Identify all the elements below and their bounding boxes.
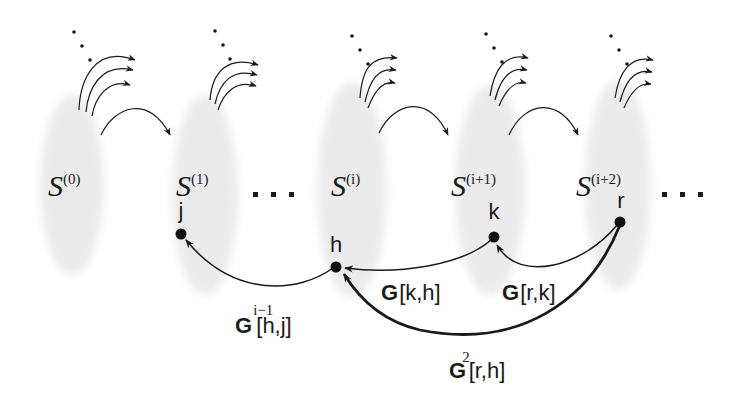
node-k	[489, 232, 500, 243]
set-ellipse-si	[317, 82, 387, 298]
node-label-j: j	[178, 198, 184, 223]
set-labels: S(0) S(1) S(i) S(i+1) S(i+2)	[48, 169, 621, 202]
edge-label-k-h: G[k,h]	[381, 280, 441, 305]
node-label-h: h	[330, 232, 342, 257]
transition-si-si1	[379, 107, 448, 135]
ellipsis-after	[662, 192, 703, 197]
node-label-k: k	[489, 199, 501, 224]
edge-label-r-k: G[r,k]	[502, 280, 556, 305]
diagram-canvas: S(0) S(1) S(i) S(i+1) S(i+2) j h k r	[0, 0, 738, 400]
fan-s1	[210, 29, 258, 110]
edge-label-h-j: Gi−1[h,j]	[235, 302, 292, 338]
node-j	[176, 229, 187, 240]
edge-labels: Gi−1[h,j] G[k,h] G[r,k] G2[r,h]	[235, 280, 556, 383]
fan-si1	[484, 32, 528, 106]
node-label-r: r	[617, 188, 624, 213]
node-labels: j h k r	[178, 188, 625, 257]
transition-s0-s1	[101, 109, 170, 135]
edge-label-r-h: G2[r,h]	[449, 349, 505, 383]
transition-si1-si2	[509, 108, 578, 135]
node-h	[331, 262, 342, 273]
node-r	[615, 217, 626, 228]
ellipsis-between	[253, 192, 294, 197]
